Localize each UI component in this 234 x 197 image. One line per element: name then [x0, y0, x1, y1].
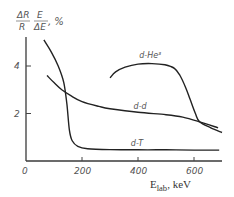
ylabel-frac2-num: E [37, 10, 43, 20]
curve-d-d [47, 76, 218, 128]
series-label-d-d: d-d [134, 102, 148, 111]
curves [44, 40, 222, 150]
series-label-d-t: d-T [131, 139, 144, 148]
ylabel-unit: , % [48, 16, 64, 27]
x-tick-label: 0 [22, 166, 28, 176]
y-tick-label: 2 [14, 109, 20, 119]
xlabel-sub: lab [157, 183, 167, 193]
curve-d-he- [110, 64, 222, 133]
ylabel-frac1-den: R [19, 22, 25, 32]
y-tick-label: 4 [14, 61, 20, 71]
series-label-d-he-: d-He³ [139, 51, 161, 60]
ylabel-frac2-den: ΔE [33, 22, 46, 32]
chart: ΔR R E ΔE , % 020040060024 d-Td-dd-He³ E… [0, 0, 234, 197]
x-axis-label: Elab, keV [150, 178, 191, 193]
ylabel-frac1-num: ΔR [16, 10, 29, 20]
series-labels: d-Td-dd-He³ [131, 51, 162, 149]
xlabel-unit: , keV [167, 178, 191, 190]
x-tick-label: 600 [186, 166, 203, 176]
axis-ticks: 020040060024 [14, 61, 203, 176]
y-axis-label: ΔR R E ΔE , % [16, 10, 64, 32]
x-tick-label: 400 [130, 166, 147, 176]
x-tick-label: 200 [74, 166, 91, 176]
